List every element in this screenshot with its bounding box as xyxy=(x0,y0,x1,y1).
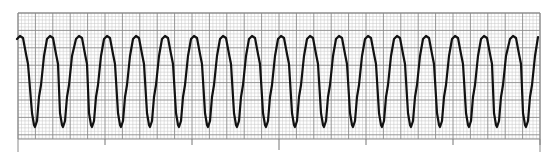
ecg-strip xyxy=(0,0,555,157)
time-marker-ticks xyxy=(105,139,540,150)
